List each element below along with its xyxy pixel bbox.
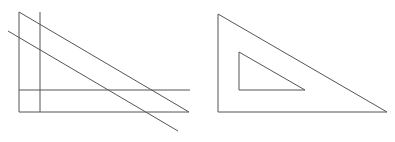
line-5 [8,31,178,131]
line-4 [19,12,189,112]
outer-triangle [218,14,387,112]
diagram-canvas [0,0,395,142]
inner-triangle [239,52,305,90]
right-figure-set-square [218,14,387,112]
left-figure-parallel-lines [8,12,190,131]
